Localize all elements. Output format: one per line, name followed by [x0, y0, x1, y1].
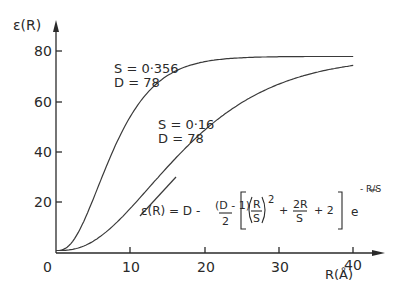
equation-s: S — [253, 212, 260, 226]
x-tick-0: 0 — [43, 260, 52, 274]
y-tick-20: 20 — [34, 195, 52, 209]
equation-frac2-num: 2R — [293, 198, 308, 212]
equation-frac2-den: S — [296, 212, 303, 226]
y-tick-60: 60 — [34, 95, 52, 109]
y-axis-arrow-icon — [53, 20, 59, 32]
x-tick-30: 30 — [271, 260, 289, 274]
equation-plus: + — [279, 204, 288, 218]
x-axis-arrow-icon — [372, 250, 385, 256]
chart-figure: ε(R) R(Å) 80 60 40 20 0 10 20 30 40 S = … — [0, 0, 413, 300]
equation-frac-den: 2 — [222, 215, 229, 229]
equation-exponent: - R/S — [360, 182, 381, 196]
annotation-s0356-line1: S = 0·356 — [114, 62, 179, 76]
y-tick-80: 80 — [34, 44, 52, 58]
equation-square: 2 — [268, 193, 274, 207]
equation-r: R — [253, 198, 261, 212]
annotation-s016-line1: S = 0·16 — [158, 118, 214, 132]
annotation-s0356-line2: D = 78 — [114, 76, 160, 90]
series-line-0 — [56, 57, 353, 251]
annotation-s016-line2: D = 78 — [158, 132, 204, 146]
plot-area — [0, 0, 413, 300]
x-tick-10: 10 — [122, 260, 140, 274]
equation-lhs: ε(R) = D - — [141, 204, 200, 218]
series-line-1 — [56, 65, 353, 250]
equation-frac-num: (D - 1) — [215, 199, 250, 213]
x-tick-20: 20 — [197, 260, 215, 274]
y-tick-40: 40 — [34, 145, 52, 159]
equation-plus-two: + 2 — [314, 204, 334, 218]
y-axis-label: ε(R) — [13, 18, 41, 32]
equation-e: e — [351, 205, 358, 219]
x-tick-40: 40 — [344, 258, 362, 272]
